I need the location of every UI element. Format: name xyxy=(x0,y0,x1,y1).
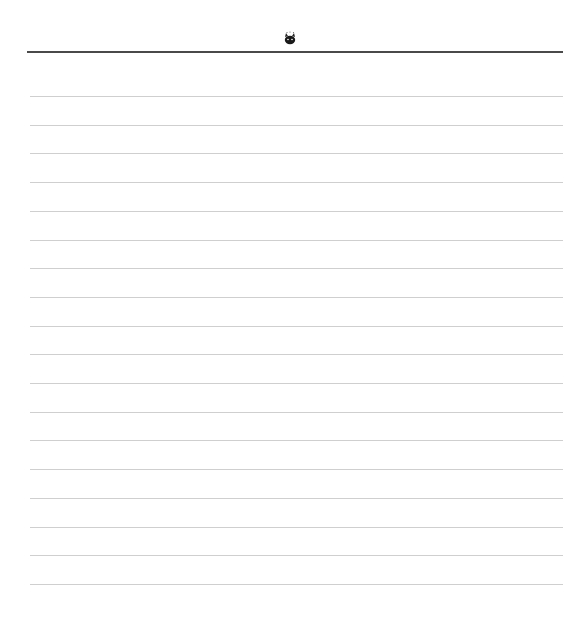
ruled-line xyxy=(30,96,563,97)
ruled-line xyxy=(30,153,563,154)
ruled-line xyxy=(30,383,563,384)
notepaper-page xyxy=(0,0,580,643)
ruled-line xyxy=(30,354,563,355)
ruled-line xyxy=(30,469,563,470)
ruled-line xyxy=(30,268,563,269)
ruled-line xyxy=(30,240,563,241)
ruled-line xyxy=(30,584,563,585)
ruled-line xyxy=(30,326,563,327)
ruled-line xyxy=(30,211,563,212)
ruled-lines xyxy=(30,0,563,643)
ruled-line xyxy=(30,527,563,528)
ruled-line xyxy=(30,412,563,413)
ruled-line xyxy=(30,297,563,298)
ruled-line xyxy=(30,182,563,183)
ruled-line xyxy=(30,555,563,556)
ruled-line xyxy=(30,125,563,126)
ruled-line xyxy=(30,498,563,499)
ruled-line xyxy=(30,440,563,441)
